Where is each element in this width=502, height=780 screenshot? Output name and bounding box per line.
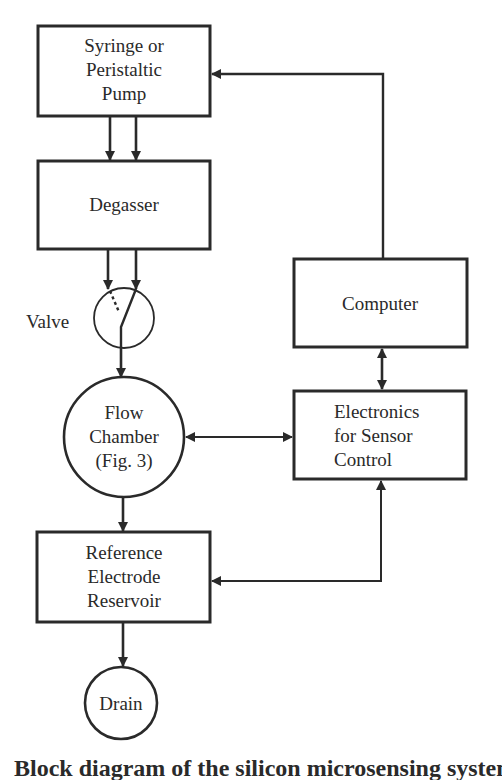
degasser-label: Degasser <box>89 194 159 215</box>
degasser-node: Degasser <box>38 161 210 249</box>
flow-chamber-label-line1: Flow <box>104 402 143 423</box>
electronics-label-line2: for Sensor <box>334 425 413 446</box>
reference-electrode-node: Reference Electrode Reservoir <box>37 532 210 622</box>
electronics-node: Electronics for Sensor Control <box>294 391 466 479</box>
reference-label-line2: Electrode <box>88 566 161 587</box>
flow-chamber-label-line3: (Fig. 3) <box>96 450 153 472</box>
computer-label: Computer <box>342 293 419 314</box>
arrow-computer-to-pump <box>212 74 383 259</box>
reference-label-line3: Reservoir <box>87 590 162 611</box>
pump-label-line1: Syringe or <box>84 35 164 56</box>
electronics-label-line1: Electronics <box>334 401 419 422</box>
flow-chamber-node: Flow Chamber (Fig. 3) <box>64 377 184 497</box>
reference-label-line1: Reference <box>86 542 163 563</box>
valve-label: Valve <box>26 311 69 332</box>
pump-node: Syringe or Peristaltic Pump <box>38 26 210 116</box>
valve-node: Valve <box>26 288 154 348</box>
computer-node: Computer <box>294 259 467 347</box>
pump-label-line3: Pump <box>102 83 146 104</box>
flow-chamber-label-line2: Chamber <box>89 426 159 447</box>
figure-caption: Block diagram of the silicon microsensin… <box>0 756 502 780</box>
drain-label: Drain <box>99 693 143 714</box>
drain-node: Drain <box>85 667 157 739</box>
arrow-reference-electronics <box>212 481 381 581</box>
electronics-label-line3: Control <box>334 449 392 470</box>
pump-label-line2: Peristaltic <box>86 59 162 80</box>
